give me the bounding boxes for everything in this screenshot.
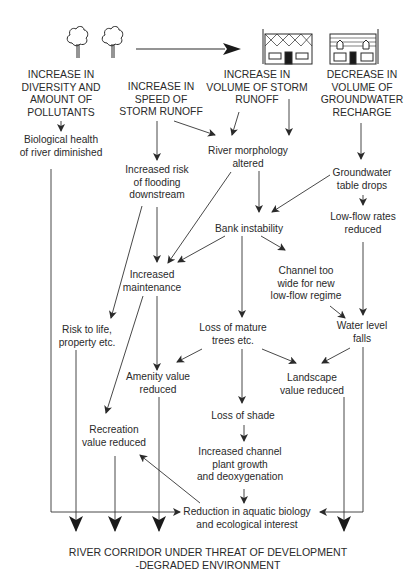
line: altered <box>208 158 288 171</box>
node-maintenance: Increased maintenance <box>123 269 181 294</box>
line: -DEGRADED ENVIRONMENT <box>69 559 347 570</box>
node-amenity: Amenity value reduced <box>126 371 190 396</box>
node-recreation: Recreation value reduced <box>82 424 146 449</box>
line: table drops <box>333 180 392 193</box>
line: trees etc. <box>199 335 266 348</box>
node-channel-too-wide: Channel too wide for new low-flow regime <box>271 265 342 303</box>
line: River morphology <box>208 145 288 158</box>
line: Water level <box>337 320 388 333</box>
line: Landscape <box>280 372 344 385</box>
cause-storm-speed: INCREASE IN SPEED OF STORM RUNOFF <box>119 81 203 119</box>
line: property etc. <box>59 337 116 350</box>
line: Biological health <box>20 134 103 147</box>
node-groundwater-table: Groundwater table drops <box>333 167 392 192</box>
node-risk-to-life: Risk to life, property etc. <box>59 324 116 349</box>
line: Channel too <box>271 265 342 278</box>
line: DIVERSITY AND <box>22 82 101 95</box>
line: INCREASE IN <box>119 81 203 94</box>
line: RIVER CORRIDOR UNDER THREAT OF DEVELOPME… <box>69 546 347 559</box>
line: GROUNDWATER <box>321 94 404 107</box>
line: plant growth <box>197 459 283 472</box>
cause-pollutants: INCREASE IN DIVERSITY AND AMOUNT OF POLL… <box>22 69 101 119</box>
line: Increased risk <box>125 164 188 177</box>
cause-groundwater: DECREASE IN VOLUME OF GROUNDWATER RECHAR… <box>321 69 404 119</box>
node-bio-health: Biological health of river diminished <box>20 134 103 159</box>
line: and deoxygenation <box>197 471 283 484</box>
line: Increased channel <box>197 446 283 459</box>
line: Amenity value <box>126 371 190 384</box>
node-landscape: Landscape value reduced <box>280 372 344 397</box>
line: Low-flow rates <box>330 211 396 224</box>
outcome-caption: RIVER CORRIDOR UNDER THREAT OF DEVELOPME… <box>69 546 347 570</box>
line: reduced <box>126 384 190 397</box>
line: value reduced <box>280 385 344 398</box>
line: of flooding <box>125 177 188 190</box>
line: value reduced <box>82 437 146 450</box>
line: and ecological interest <box>183 519 310 532</box>
line: VOLUME OF STORM <box>206 82 307 95</box>
line: POLLUTANTS <box>22 107 101 120</box>
node-flooding: Increased risk of flooding downstream <box>125 164 188 202</box>
line: STORM RUNOFF <box>119 106 203 119</box>
node-water-level: Water level falls <box>337 320 388 345</box>
node-lowflow: Low-flow rates reduced <box>330 211 396 236</box>
line: falls <box>337 333 388 346</box>
node-loss-of-trees: Loss of mature trees etc. <box>199 322 266 347</box>
line: DECREASE IN <box>321 69 404 82</box>
line: Increased <box>123 269 181 282</box>
line: AMOUNT OF <box>22 94 101 107</box>
line: Risk to life, <box>59 324 116 337</box>
line: Reduction in aquatic biology <box>183 506 310 519</box>
line: maintenance <box>123 282 181 295</box>
line: of river diminished <box>20 147 103 160</box>
line: wide for new <box>271 278 342 291</box>
house-slatted-roof-icon <box>330 29 378 64</box>
node-bank-instability: Bank instability <box>215 223 283 236</box>
line: Loss of shade <box>211 410 274 423</box>
line: Bank instability <box>215 223 283 236</box>
cause-storm-volume: INCREASE IN VOLUME OF STORM RUNOFF <box>206 69 307 107</box>
node-loss-of-shade: Loss of shade <box>211 410 274 423</box>
line: downstream <box>125 189 188 202</box>
two-trees-icon <box>67 26 123 58</box>
line: Loss of mature <box>199 322 266 335</box>
line: Groundwater <box>333 167 392 180</box>
node-plant-growth: Increased channel plant growth and deoxy… <box>197 446 283 484</box>
line: reduced <box>330 224 396 237</box>
node-aquatic-biology: Reduction in aquatic biology and ecologi… <box>183 506 310 531</box>
line: Recreation <box>82 424 146 437</box>
house-tiled-roof-icon <box>263 29 312 64</box>
line: low-flow regime <box>271 290 342 303</box>
line: RECHARGE <box>321 107 404 120</box>
line: RUNOFF <box>206 94 307 107</box>
line: INCREASE IN <box>206 69 307 82</box>
line: INCREASE IN <box>22 69 101 82</box>
node-morphology: River morphology altered <box>208 145 288 170</box>
line: SPEED OF <box>119 94 203 107</box>
line: VOLUME OF <box>321 82 404 95</box>
